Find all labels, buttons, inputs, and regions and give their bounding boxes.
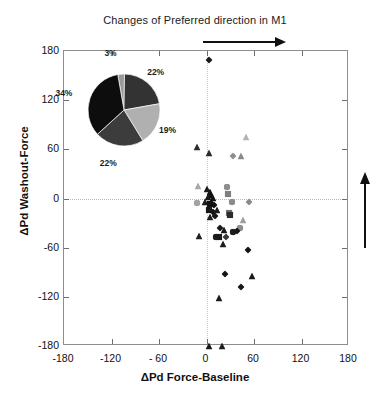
y-tick-label: 60 [19,142,59,154]
y-tick-mark [64,248,69,249]
data-point-diamond [246,192,253,199]
y-tick-label: 180 [19,44,59,56]
x-tick-label: 60 [228,352,278,364]
data-point-square [227,204,234,211]
y-tick-mark [64,149,69,150]
x-tick-mark [112,339,113,344]
vertical-arrow-icon [358,172,372,248]
data-point-triangle [194,175,201,182]
y-tick-mark [342,248,347,249]
x-tick-mark [302,339,303,344]
data-point-diamond [229,146,236,153]
data-point-triangle [194,136,201,143]
data-point-diamond [221,264,228,271]
data-point-diamond [237,277,244,284]
data-point-triangle [196,225,203,232]
pie-slice-label: 22% [147,67,164,77]
x-tick-label: 180 [323,352,373,364]
data-point-triangle [239,210,246,217]
data-point-triangle [243,126,250,133]
data-point-triangle [207,206,214,213]
y-tick-mark [64,297,69,298]
data-point-diamond [233,220,240,227]
x-tick-mark [254,51,255,56]
y-tick-label: -60 [19,241,59,253]
data-point-triangle [248,265,255,272]
y-tick-mark [342,100,347,101]
chart-title: Changes of Preferred direction in M1 [0,14,390,26]
data-point-diamond [244,239,251,246]
pie-slice-label: 3% [104,48,116,58]
x-tick-label: -180 [38,352,88,364]
x-tick-label: -120 [86,352,136,364]
figure-root: Changes of Preferred direction in M1 ΔPd… [0,0,390,399]
y-tick-mark [64,100,69,101]
y-tick-label: -120 [19,290,59,302]
data-point-triangle [205,143,212,150]
x-tick-mark [159,339,160,344]
x-tick-mark [302,51,303,56]
data-point-triangle [218,336,225,343]
x-tick-label: 120 [276,352,326,364]
y-tick-mark [342,297,347,298]
data-point-circle [228,192,235,199]
x-tick-mark [159,51,160,56]
y-tick-mark [342,149,347,150]
data-point-diamond [205,49,212,56]
horizontal-arrow-icon [203,34,286,46]
data-point-triangle [216,288,223,295]
y-tick-mark [342,199,347,200]
inset-pie-chart: 3%22%19%22%34% [86,72,162,148]
y-tick-label: 0 [19,192,59,204]
y-tick-label: -180 [19,339,59,351]
pie-slice-label: 19% [159,125,176,135]
x-tick-label: - 60 [133,352,183,364]
data-point-triangle [220,234,227,241]
y-tick-label: 120 [19,93,59,105]
data-point-triangle [237,146,244,153]
data-point-square [216,226,223,233]
data-point-triangle [205,336,212,343]
x-tick-mark [254,339,255,344]
data-point-circle [194,193,201,200]
pie-slice-label: 22% [100,158,117,168]
y-tick-mark [64,199,69,200]
pie-slice-label: 34% [55,88,72,98]
data-point-square [224,184,231,191]
x-axis-label: ΔPd Force-Baseline [0,371,390,383]
x-tick-label: 0 [181,352,231,364]
